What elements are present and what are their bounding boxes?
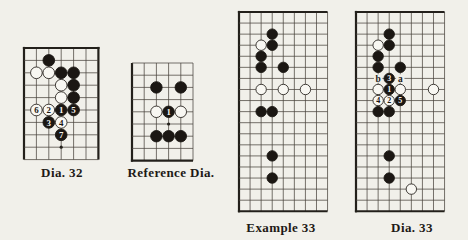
white-stone [428, 84, 438, 94]
black-stone [372, 106, 382, 116]
black-stone [395, 62, 405, 72]
label-dia-32: Dia. 32 [41, 165, 83, 181]
black-stone [267, 28, 277, 38]
star-point [60, 145, 63, 148]
move-number: 2 [47, 105, 52, 115]
black-stone [68, 66, 80, 78]
black-stone [384, 40, 394, 50]
black-stone [267, 150, 277, 160]
black-stone [68, 91, 80, 103]
move-number: 2 [387, 96, 391, 105]
point-letter: a [397, 73, 402, 83]
move-number: 5 [71, 105, 76, 115]
black-stone [163, 130, 174, 141]
point-letter: b [375, 73, 380, 83]
white-stone [55, 79, 67, 91]
black-stone [43, 54, 55, 66]
white-stone [43, 66, 55, 78]
black-stone [384, 28, 394, 38]
black-stone [255, 51, 265, 61]
move-number: 1 [166, 106, 170, 116]
black-stone [255, 106, 265, 116]
black-stone [68, 79, 80, 91]
move-number: 1 [387, 85, 391, 94]
white-stone [406, 183, 416, 193]
move-number: 6 [34, 105, 39, 115]
move-number: 4 [376, 96, 380, 105]
black-stone [372, 51, 382, 61]
move-number: 5 [398, 96, 402, 105]
move-number: 3 [387, 74, 391, 83]
white-stone [372, 84, 382, 94]
star-point [167, 122, 170, 125]
white-stone [175, 106, 186, 117]
goban-dia-32: 6215347 [17, 41, 105, 167]
white-stone [395, 84, 405, 94]
move-number: 4 [59, 117, 64, 127]
black-stone [372, 62, 382, 72]
black-stone [175, 81, 186, 92]
black-stone [384, 106, 394, 116]
white-stone [55, 91, 67, 103]
move-number: 3 [47, 117, 52, 127]
black-stone [151, 81, 162, 92]
black-stone [151, 130, 162, 141]
label-reference-dia: Reference Dia. [128, 165, 215, 181]
goban-dia-33: ba31425 [349, 5, 452, 218]
black-stone [267, 106, 277, 116]
label-example-33: Example 33 [246, 220, 315, 236]
black-stone [255, 62, 265, 72]
black-stone [267, 40, 277, 50]
black-stone [55, 66, 67, 78]
white-stone [278, 84, 288, 94]
goban-example-33 [232, 5, 335, 218]
white-stone [31, 66, 43, 78]
move-number: 7 [59, 129, 64, 139]
black-stone [384, 150, 394, 160]
move-number: 1 [59, 105, 63, 115]
goban-reference-dia: 1 [125, 56, 200, 168]
label-dia-33: Dia. 33 [391, 220, 433, 236]
black-stone [267, 172, 277, 182]
white-stone [372, 40, 382, 50]
white-stone [255, 84, 265, 94]
white-stone [300, 84, 310, 94]
black-stone [384, 172, 394, 182]
white-stone [255, 40, 265, 50]
black-stone [278, 62, 288, 72]
black-stone [175, 130, 186, 141]
page: Dia. 32 Reference Dia. Example 33 Dia. 3… [0, 0, 468, 240]
white-stone [151, 106, 162, 117]
